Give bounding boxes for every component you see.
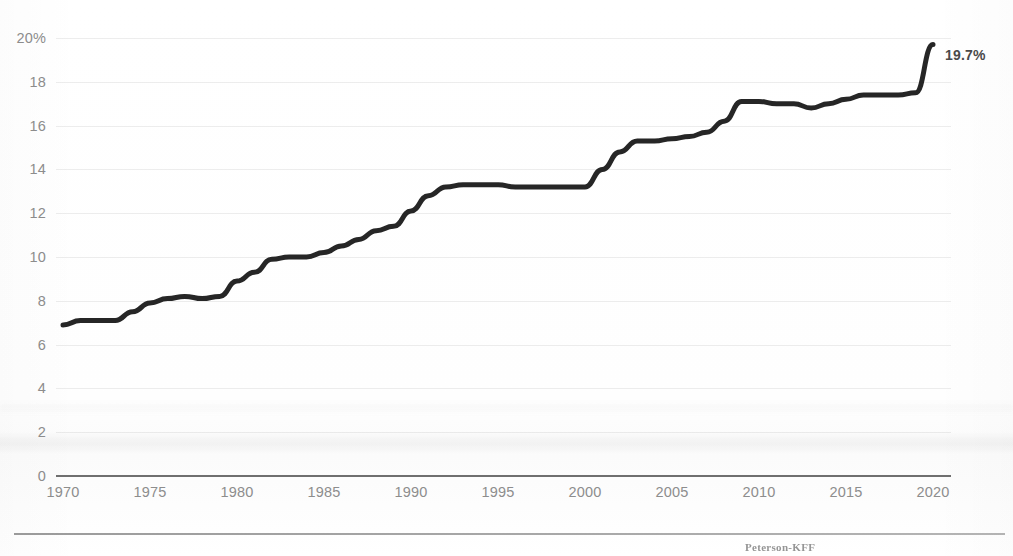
data-series-line: [63, 45, 933, 325]
line-chart: 20%181614121086420 197019751980198519901…: [0, 0, 1013, 556]
footer-divider: [14, 533, 1005, 535]
chart-page: 20%181614121086420 197019751980198519901…: [0, 0, 1013, 556]
end-value-label: 19.7%: [945, 47, 986, 63]
source-attribution: Peterson-KFF: [745, 541, 815, 553]
plot-area: [0, 0, 1013, 556]
